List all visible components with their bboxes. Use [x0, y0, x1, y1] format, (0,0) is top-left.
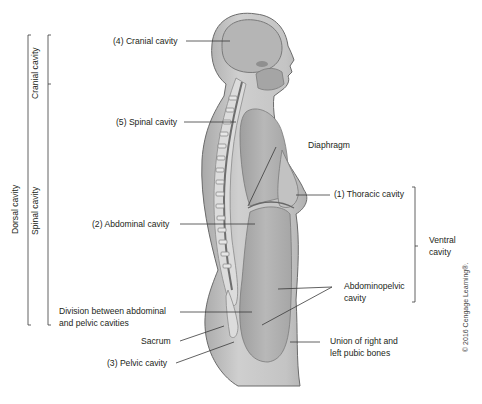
pubic-label-line1: Union of right and	[330, 336, 398, 347]
ventral-cavity-label-line2: cavity	[429, 247, 451, 258]
sacrum-label: Sacrum	[141, 336, 171, 347]
ventral-cavity-bracket	[412, 187, 418, 302]
abdominopelvic-label-line1: Abdominopelvic	[344, 281, 405, 292]
cranial-cavity-shape	[222, 20, 282, 73]
diaphragm-label: Diaphragm	[308, 140, 350, 151]
division-label-line1: Division between abdominal	[59, 306, 166, 317]
cranial-cavity-bracket-label: Cranial cavity	[30, 47, 40, 99]
body-sagittal-illustration	[0, 0, 482, 404]
breast-shape	[278, 150, 298, 208]
cranial-cavity-label: (4) Cranial cavity	[113, 36, 177, 47]
spinal-cavity-label: (5) Spinal cavity	[116, 117, 177, 128]
abdominopelvic-cavity-shape	[240, 207, 292, 362]
nasal-oral-region	[256, 68, 284, 90]
spinal-cavity-bracket-label: Spinal cavity	[30, 187, 40, 235]
cranial-cavity-bracket	[48, 35, 51, 84]
thoracic-cavity-label: (1) Thoracic cavity	[334, 189, 404, 200]
abdominal-cavity-label: (2) Abdominal cavity	[92, 219, 169, 230]
pubic-label-line2: left pubic bones	[330, 348, 390, 359]
abdominopelvic-label-line2: cavity	[344, 293, 366, 304]
dorsal-cavity-label: Dorsal cavity	[10, 185, 20, 234]
pelvic-cavity-label: (3) Pelvic cavity	[107, 358, 167, 369]
division-label-line2: and pelvic cavities	[59, 318, 129, 329]
spinal-cavity-bracket	[48, 84, 51, 325]
ventral-cavity-label-line1: Ventral	[429, 235, 456, 246]
copyright-notice: © 2016 Cengage Learning®.	[462, 263, 469, 352]
